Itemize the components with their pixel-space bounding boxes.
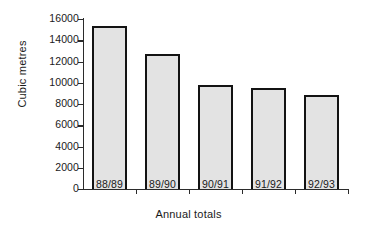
y-tick-label: 6000 — [55, 118, 79, 130]
y-tick-label: 12000 — [49, 55, 79, 67]
y-tick-label: 14000 — [49, 33, 79, 45]
x-category-label: 89/90 — [133, 178, 193, 190]
bar — [304, 95, 339, 189]
plot-area: 0200040006000800010000120001400016000 — [83, 19, 348, 189]
bar — [145, 54, 180, 189]
y-tick-label: 16000 — [49, 12, 79, 24]
x-category-label: 91/92 — [239, 178, 299, 190]
y-tick-label: 0 — [73, 182, 79, 194]
bar — [198, 85, 233, 189]
bar-chart-figure: Cubic metres 020004000600080001000012000… — [0, 0, 377, 238]
bar — [251, 88, 286, 189]
x-category-label: 90/91 — [186, 178, 246, 190]
y-tick-label: 8000 — [55, 97, 79, 109]
y-axis-title: Cubic metres — [16, 14, 28, 134]
x-category-label: 92/93 — [292, 178, 352, 190]
y-tick-label: 2000 — [55, 161, 79, 173]
y-tick-label: 4000 — [55, 140, 79, 152]
y-tick-label: 10000 — [49, 76, 79, 88]
x-category-label: 88/89 — [80, 178, 140, 190]
x-axis-title: Annual totals — [0, 208, 377, 220]
bar — [92, 26, 127, 189]
